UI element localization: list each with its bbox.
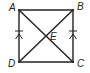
label-a: A: [8, 2, 16, 13]
geometry-figure: A B C D E: [0, 0, 90, 73]
label-e: E: [50, 31, 57, 42]
label-d: D: [8, 58, 15, 69]
label-c: C: [77, 58, 85, 69]
label-b: B: [77, 1, 84, 12]
